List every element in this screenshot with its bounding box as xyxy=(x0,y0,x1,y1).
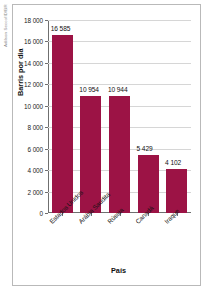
bar xyxy=(109,96,130,213)
y-tick-label: 0 xyxy=(40,210,43,217)
y-tick-label: 4 000 xyxy=(28,167,44,174)
bar-value-label: 10 954 xyxy=(79,86,99,93)
plot-area: 18 00016 00014 00012 00010 0008 0006 000… xyxy=(48,20,191,213)
bar-series: 16 58510 95410 9445 4294 102 xyxy=(48,20,191,213)
y-tick-label: 18 000 xyxy=(24,17,43,24)
bar xyxy=(166,169,187,213)
y-tick-label: 10 000 xyxy=(24,102,43,109)
y-tick-mark xyxy=(45,213,48,214)
bar xyxy=(52,35,73,213)
chart-figure: Adilson Secco/ID/BR 18 00016 00014 00012… xyxy=(0,0,203,289)
bar-value-label: 5 429 xyxy=(137,145,153,152)
y-tick-label: 8 000 xyxy=(28,124,44,131)
y-tick-label: 12 000 xyxy=(24,81,43,88)
y-tick-label: 16 000 xyxy=(24,38,43,45)
image-credit: Adilson Secco/ID/BR xyxy=(3,0,8,47)
bar-value-label: 10 944 xyxy=(108,86,128,93)
y-tick-label: 6 000 xyxy=(28,145,44,152)
y-tick-label: 2 000 xyxy=(28,188,44,195)
y-tick-label: 14 000 xyxy=(24,59,43,66)
x-axis-title: País xyxy=(0,266,203,275)
y-axis-title: Barris por dia xyxy=(16,49,25,96)
bar-value-label: 4 102 xyxy=(165,159,181,166)
bar xyxy=(80,96,101,213)
bar-value-label: 16 585 xyxy=(51,25,71,32)
